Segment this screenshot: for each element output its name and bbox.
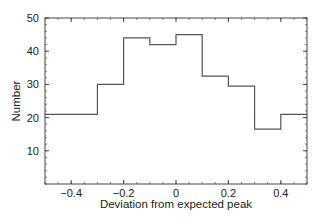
x-axis-title: Deviation from expected peak [100, 198, 252, 210]
y-tick-label: 30 [27, 78, 39, 90]
x-tick-label: −0.4 [60, 187, 82, 199]
y-tick-label: 40 [27, 45, 39, 57]
y-tick-label: 10 [27, 145, 39, 157]
y-tick-label: 20 [27, 112, 39, 124]
x-tick-label: 0.4 [273, 187, 288, 199]
y-tick-label: 50 [27, 12, 39, 24]
histogram-chart: −0.4−0.200.20.4 1020304050 Deviation fro… [0, 0, 324, 217]
histogram-step-line [45, 35, 307, 130]
y-axis-ticks: 1020304050 [27, 12, 307, 157]
y-axis-title: Number [10, 80, 22, 121]
